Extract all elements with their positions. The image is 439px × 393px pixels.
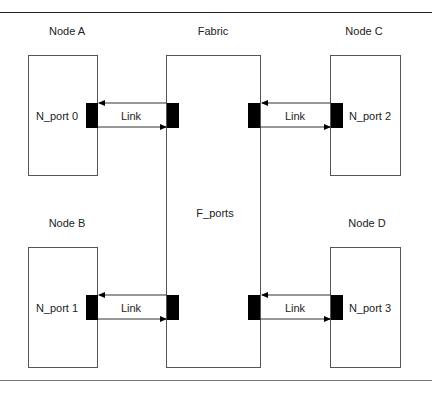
f-port-c-block (248, 103, 260, 128)
f-port-b-block (167, 295, 179, 320)
f-port-d-block (248, 295, 260, 320)
n-port-3-label: N_port 3 (349, 302, 391, 314)
node-b-title: Node B (49, 217, 86, 229)
f-port-a-block (167, 103, 179, 128)
n-port-3-block (331, 295, 343, 320)
n-port-0-block (86, 103, 98, 128)
f-ports-label: F_ports (196, 207, 233, 219)
n-port-1-block (86, 295, 98, 320)
n-port-0-label: N_port 0 (36, 110, 78, 122)
node-c-title: Node C (345, 25, 382, 37)
top-rule (0, 12, 432, 13)
link-c-label: Link (285, 110, 305, 122)
node-a-title: Node A (49, 25, 85, 37)
link-d-label: Link (285, 302, 305, 314)
n-port-2-label: N_port 2 (349, 110, 391, 122)
n-port-1-label: N_port 1 (36, 302, 78, 314)
node-d-title: Node D (348, 217, 385, 229)
link-a-label: Link (121, 110, 141, 122)
fabric-title: Fabric (198, 25, 229, 37)
bottom-rule (0, 380, 432, 381)
link-b-label: Link (121, 302, 141, 314)
n-port-2-block (331, 103, 343, 128)
